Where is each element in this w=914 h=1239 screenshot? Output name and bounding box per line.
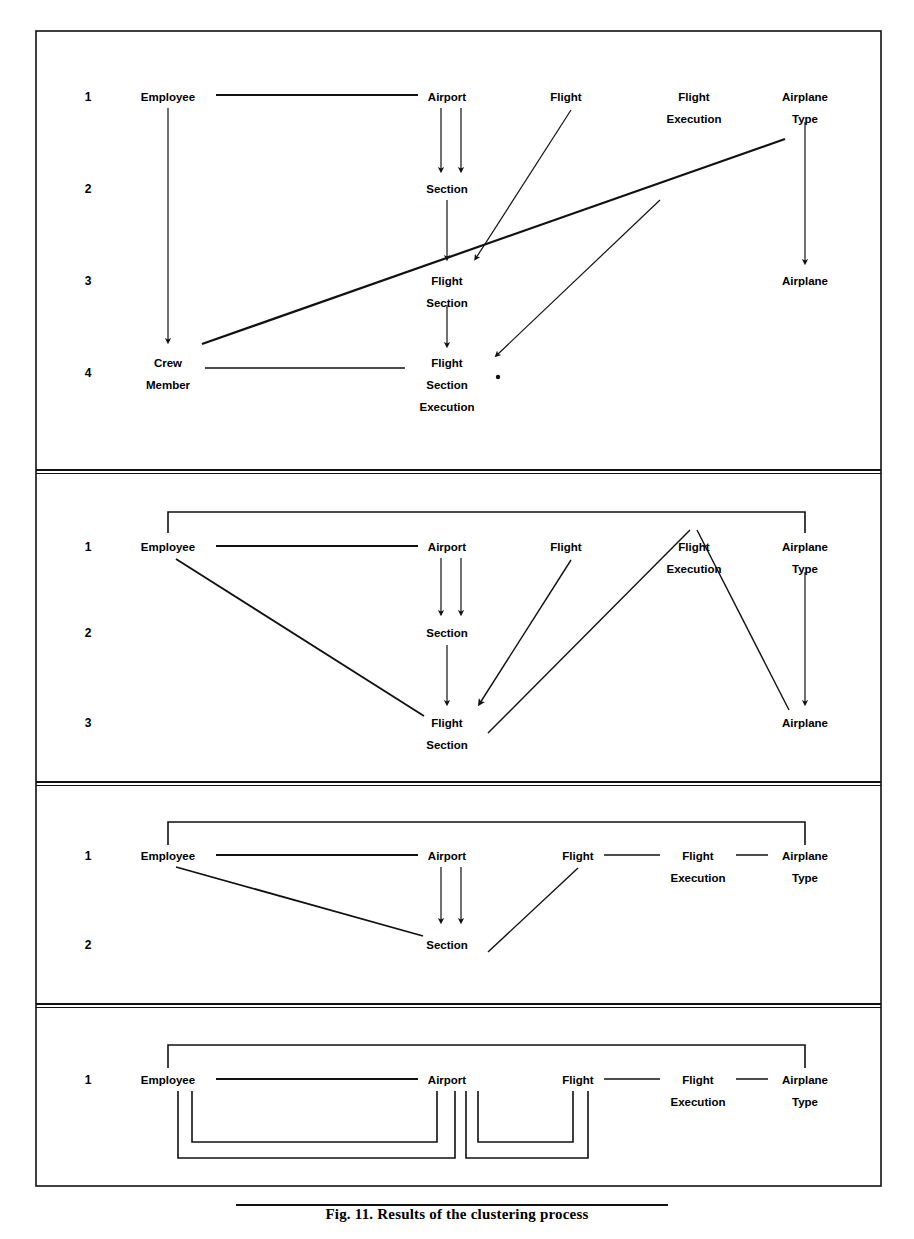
figure-canvas: 1 2 3 4 [0,0,914,1239]
node-airplane: Airplane [782,275,828,287]
node-airplane-type-line2: Type [792,113,818,125]
node-employee: Employee [141,850,195,862]
node-employee: Employee [141,1074,195,1086]
node-airplane-type-line1: Airplane [782,1074,828,1086]
node-airport: Airport [428,91,467,103]
node-airport: Airport [428,1074,467,1086]
node-flight-section-line1: Flight [431,717,462,729]
edge-endpoint-dot [496,375,500,379]
node-airport: Airport [428,541,467,553]
node-flight-execution-line1: Flight [682,1074,713,1086]
level-label-1: 1 [85,90,92,104]
node-airplane-type-line2: Type [792,872,818,884]
level-label-1: 1 [85,1073,92,1087]
node-airplane-type-line1: Airplane [782,91,828,103]
node-fsexec-line1: Flight [431,357,462,369]
node-flight-execution-line2: Execution [667,113,722,125]
node-employee: Employee [141,541,195,553]
node-employee: Employee [141,91,195,103]
node-flight: Flight [562,850,593,862]
level-label-2: 2 [85,182,92,196]
level-label-1: 1 [85,540,92,554]
node-airplane-type-line2: Type [792,1096,818,1108]
node-flight-section-line2: Section [426,739,468,751]
node-flight-execution-line1: Flight [678,91,709,103]
node-fsexec-line3: Execution [420,401,475,413]
node-section: Section [426,939,468,951]
node-flight-execution-line2: Execution [671,1096,726,1108]
node-airplane: Airplane [782,717,828,729]
node-flight-execution-line2: Execution [671,872,726,884]
node-flight: Flight [550,541,581,553]
node-fsexec-line2: Section [426,379,468,391]
node-flight-section-line2: Section [426,297,468,309]
node-flight: Flight [562,1074,593,1086]
clustering-figure: 1 2 3 4 [0,0,914,1239]
level-label-2: 2 [85,626,92,640]
node-airport: Airport [428,850,467,862]
node-flight: Flight [550,91,581,103]
node-flight-execution-line1: Flight [682,850,713,862]
level-label-2: 2 [85,938,92,952]
node-flight-execution-line1: Flight [678,541,709,553]
node-flight-execution-line2: Execution [667,563,722,575]
figure-caption: Fig. 11. Results of the clustering proce… [0,1206,914,1223]
level-label-4: 4 [85,366,92,380]
node-airplane-type-line1: Airplane [782,541,828,553]
level-label-1: 1 [85,849,92,863]
node-crew-member-line2: Member [146,379,191,391]
node-airplane-type-line1: Airplane [782,850,828,862]
node-airplane-type-line2: Type [792,563,818,575]
level-label-3: 3 [85,716,92,730]
node-crew-member-line1: Crew [154,357,182,369]
node-section: Section [426,183,468,195]
node-section: Section [426,627,468,639]
node-flight-section-line1: Flight [431,275,462,287]
panel-4-level-labels: 1 [85,1073,92,1087]
level-label-3: 3 [85,274,92,288]
